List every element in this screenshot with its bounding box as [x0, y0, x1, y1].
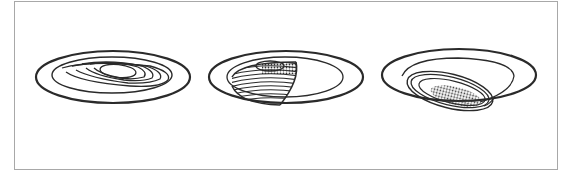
fixture-2-wall-wash	[209, 51, 363, 105]
fixture-1-step-baffle	[36, 51, 190, 103]
fixture-3-eyeball	[382, 49, 536, 118]
recessed-lights-illustration	[0, 0, 580, 178]
